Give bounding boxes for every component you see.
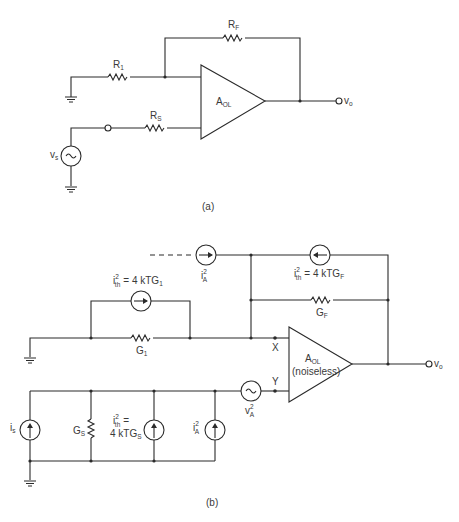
resistor-rf (223, 35, 242, 41)
arrow-left-icon (313, 252, 318, 258)
arrow-right-icon (143, 298, 148, 304)
label-is: is (10, 422, 16, 434)
ground-icon (65, 96, 77, 102)
label-ith-1: i2th= 4 kTG1 (113, 273, 163, 288)
label-r1: R1 (113, 59, 124, 71)
label-ia-top: i2A (201, 268, 208, 283)
circuit-diagrams: R1 RF RS AOL vs vo (a) (0, 0, 459, 522)
caption-b: (b) (206, 497, 218, 508)
sine-wave-icon (66, 154, 76, 158)
ground-icon (24, 358, 36, 363)
label-rf: RF (228, 19, 239, 31)
output-terminal (426, 361, 432, 367)
label-va: v2A (245, 403, 255, 418)
label-ith-f: i2th= 4 kTGF (294, 266, 344, 281)
label-aol-b: AOL (305, 353, 321, 365)
resistor-r1 (108, 74, 127, 80)
output-terminal (336, 98, 342, 104)
arrow-up-icon (27, 423, 33, 428)
label-vo: vo (344, 95, 353, 107)
sine-wave-icon (246, 389, 256, 393)
label-gf: GF (316, 307, 328, 319)
resistor-rs (145, 125, 164, 131)
label-ia-bottom: i2A (193, 420, 200, 435)
label-ith-s-line2: 4 kTGS (110, 428, 142, 440)
figure-a-noninverting-amplifier: R1 RF RS AOL vs vo (a) (50, 19, 353, 212)
figure-b-noise-model: i2A i2th= 4 kTGF GF i2th= 4 kTG1 G1 X Y … (10, 245, 443, 508)
arrow-up-icon (212, 423, 218, 428)
label-noiseless: (noiseless) (292, 366, 340, 377)
input-terminal (105, 125, 111, 131)
resistor-g1 (131, 335, 150, 341)
ground-icon (24, 481, 36, 486)
label-g1: G1 (136, 345, 148, 357)
resistor-gf (311, 297, 330, 303)
arrow-right-icon (208, 252, 213, 258)
arrow-up-icon (151, 423, 157, 428)
label-vs: vs (50, 149, 59, 161)
resistor-gs (88, 419, 94, 438)
label-vo-b: vo (434, 358, 443, 370)
caption-a: (a) (202, 201, 214, 212)
label-rs: RS (150, 110, 162, 122)
opamp-triangle-noiseless (289, 327, 352, 402)
label-y: Y (272, 376, 279, 387)
label-aol: AOL (216, 96, 232, 108)
label-x: X (272, 342, 279, 353)
ground-icon (65, 187, 77, 192)
opamp-triangle (201, 65, 265, 139)
node-y (273, 389, 277, 393)
label-ith-s-line1: i2th= (113, 413, 129, 428)
label-gs: GS (73, 425, 86, 437)
